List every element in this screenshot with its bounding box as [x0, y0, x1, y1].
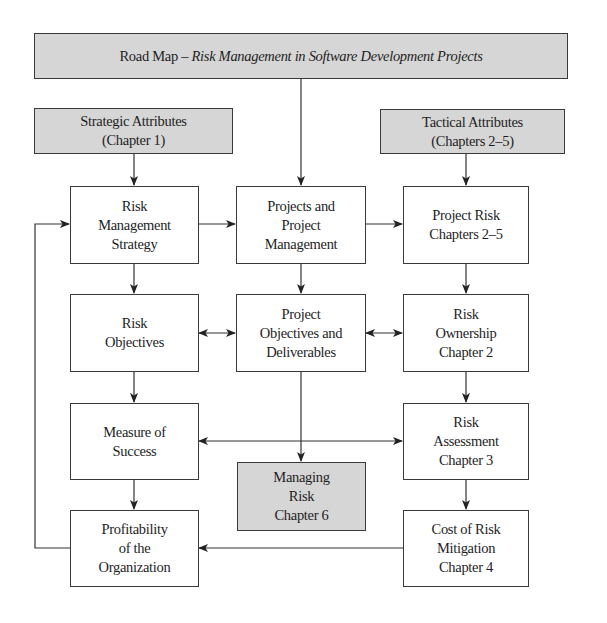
node-label: Risk Assessment Chapter 3	[433, 413, 498, 470]
title-italic: Risk Management in Software Development …	[192, 47, 483, 66]
node-managing-risk: Managing Risk Chapter 6	[237, 462, 366, 531]
node-tactical-attributes: Tactical Attributes (Chapters 2–5)	[380, 109, 565, 154]
node-projects-and-project-management: Projects and Project Management	[236, 186, 366, 264]
title-prefix: Road Map –	[120, 47, 192, 66]
feedback-profitability-to-strategy	[35, 224, 70, 548]
node-cost-of-risk-mitigation: Cost of Risk Mitigation Chapter 4	[403, 510, 529, 587]
node-risk-management-strategy: Risk Management Strategy	[70, 186, 199, 264]
node-measure-of-success: Measure of Success	[70, 403, 199, 480]
node-label: Profitability of the Organization	[99, 520, 171, 577]
node-label: Managing Risk Chapter 6	[273, 468, 329, 525]
node-label: Cost of Risk Mitigation Chapter 4	[432, 520, 501, 577]
node-profitability-of-the-organization: Profitability of the Organization	[70, 510, 199, 587]
node-risk-assessment: Risk Assessment Chapter 3	[403, 403, 529, 480]
node-label: Measure of Success	[103, 423, 166, 461]
node-label: Risk Management Strategy	[98, 197, 171, 254]
node-label: Project Objectives and Deliverables	[260, 305, 342, 362]
node-project-risk: Project Risk Chapters 2–5	[403, 186, 529, 264]
node-risk-ownership: Risk Ownership Chapter 2	[403, 294, 529, 372]
title-box: Road Map – Risk Management in Software D…	[34, 33, 568, 79]
node-label: Risk Ownership Chapter 2	[436, 305, 497, 362]
node-label: Tactical Attributes (Chapters 2–5)	[422, 113, 523, 151]
node-project-objectives-and-deliverables: Project Objectives and Deliverables	[236, 294, 366, 372]
node-risk-objectives: Risk Objectives	[70, 294, 199, 372]
node-label: Projects and Project Management	[265, 197, 338, 254]
node-strategic-attributes: Strategic Attributes (Chapter 1)	[34, 108, 233, 154]
node-label: Risk Objectives	[105, 314, 164, 352]
node-label: Strategic Attributes (Chapter 1)	[80, 112, 186, 150]
node-label: Project Risk Chapters 2–5	[429, 206, 502, 244]
